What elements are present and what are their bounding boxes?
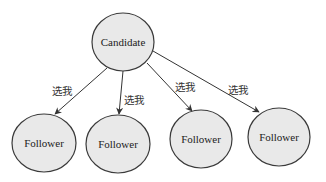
- edges: 选我选我选我选我: [52, 51, 259, 114]
- edge-follower-2: 选我: [119, 71, 145, 114]
- node-label: Follower: [98, 138, 138, 150]
- node-candidate: Candidate: [92, 13, 154, 71]
- node-label: Follower: [181, 133, 221, 145]
- edge-label: 选我: [52, 85, 73, 97]
- node-follower-1: Follower: [12, 114, 76, 172]
- edge-follower-3: 选我: [147, 63, 196, 111]
- edge-label: 选我: [124, 94, 145, 106]
- arrow-line: [119, 71, 123, 114]
- node-label: Follower: [259, 131, 299, 143]
- edge-follower-4: 选我: [153, 51, 259, 112]
- edge-label: 选我: [228, 84, 249, 96]
- node-label: Candidate: [101, 36, 146, 48]
- node-follower-2: Follower: [86, 115, 150, 173]
- node-follower-4: Follower: [248, 108, 310, 166]
- arrow-line: [153, 51, 259, 112]
- edge-label: 选我: [175, 81, 196, 93]
- node-label: Follower: [24, 137, 64, 149]
- node-follower-3: Follower: [170, 110, 232, 168]
- edge-follower-1: 选我: [52, 68, 107, 114]
- raft-election-diagram: 选我选我选我选我 CandidateFollowerFollowerFollow…: [0, 0, 326, 182]
